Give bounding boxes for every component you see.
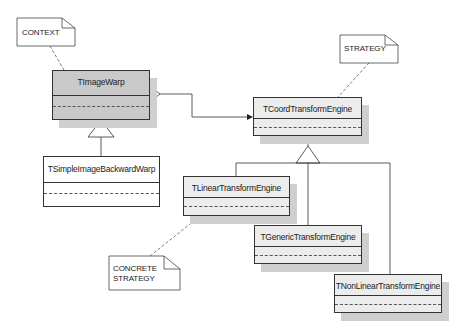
class-simple-image-backward-warp[interactable]: TSimpleImageBackwardWarp xyxy=(43,156,160,207)
operations-compartment xyxy=(335,304,441,305)
class-nonlinear-transform-engine[interactable]: TNonLinearTransformEngine xyxy=(334,274,442,313)
class-linear-transform-engine[interactable]: TLinearTransformEngine xyxy=(183,176,290,216)
operations-compartment xyxy=(44,193,159,194)
attributes-compartment xyxy=(44,182,159,193)
class-name: TImageWarp xyxy=(53,71,149,95)
note-concrete-line-1: CONCRETE xyxy=(113,264,157,274)
attributes-compartment xyxy=(335,295,441,304)
note-strategy-link xyxy=(338,63,369,97)
class-name: TCoordTransformEngine xyxy=(254,98,361,118)
class-name: TSimpleImageBackwardWarp xyxy=(44,157,159,182)
note-concrete-strategy: CONCRETE STRATEGY xyxy=(113,264,157,284)
class-name: TGenericTransformEngine xyxy=(255,226,361,246)
operations-compartment xyxy=(254,127,361,128)
attributes-compartment xyxy=(254,118,361,127)
class-name: TLinearTransformEngine xyxy=(184,177,289,197)
class-name: TNonLinearTransformEngine xyxy=(335,275,441,295)
aggregation-connector xyxy=(150,90,253,120)
attributes-compartment xyxy=(184,197,289,206)
operations-compartment xyxy=(184,206,289,207)
attributes-compartment xyxy=(53,95,149,106)
note-strategy: STRATEGY xyxy=(344,44,386,54)
class-coord-transform-engine[interactable]: TCoordTransformEngine xyxy=(253,97,362,136)
operations-compartment xyxy=(255,255,361,256)
class-image-warp[interactable]: TImageWarp xyxy=(52,70,150,120)
class-generic-transform-engine[interactable]: TGenericTransformEngine xyxy=(254,225,362,264)
note-concrete-line-2: STRATEGY xyxy=(113,274,157,284)
note-context-link xyxy=(50,46,64,70)
note-context: CONTEXT xyxy=(22,28,60,38)
operations-compartment xyxy=(53,106,149,107)
attributes-compartment xyxy=(255,246,361,255)
